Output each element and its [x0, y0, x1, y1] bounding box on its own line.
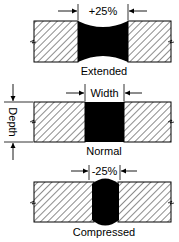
caption-compressed: Compressed: [73, 226, 135, 238]
left-substrate: [34, 21, 78, 62]
caption-normal: Normal: [86, 145, 121, 157]
sealant-concave: [78, 21, 128, 62]
panel-normal: Width Depth Normal: [4, 84, 174, 160]
side-label: Depth: [7, 107, 19, 136]
right-substrate: [118, 182, 171, 222]
dimension-label: -25%: [92, 165, 118, 177]
panel-compressed: -25% Compressed: [30, 165, 174, 238]
right-substrate: [128, 21, 171, 62]
caption-extended: Extended: [81, 65, 127, 77]
dimension-label: +25%: [89, 5, 118, 17]
sealant-convex: [92, 179, 119, 226]
right-substrate: [124, 102, 171, 142]
sealant-rectangular: [85, 102, 124, 142]
joint-movement-diagram: +25% Extended Width Depth Normal -25%: [0, 0, 179, 242]
left-substrate: [34, 102, 85, 142]
dimension-label: Width: [90, 87, 118, 99]
panel-extended: +25% Extended: [30, 4, 174, 77]
left-substrate: [34, 182, 94, 222]
